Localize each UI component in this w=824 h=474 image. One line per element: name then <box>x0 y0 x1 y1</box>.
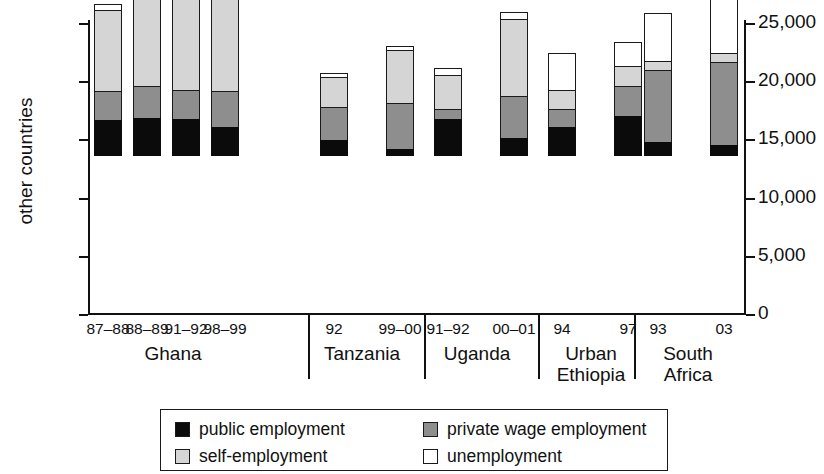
right-tick-mark <box>746 81 755 83</box>
bar-segment-public <box>644 142 672 156</box>
bar-segment-private <box>644 70 672 143</box>
bar-segment-self <box>133 0 161 87</box>
bar-stack <box>172 0 200 155</box>
left-tick-mark <box>79 139 88 141</box>
bar-segment-self <box>548 90 576 110</box>
group-separator <box>308 315 310 379</box>
bar-segment-private <box>211 91 239 128</box>
bar-stack <box>500 12 528 155</box>
bar-segment-unemp <box>644 13 672 62</box>
bar-segment-public <box>320 140 348 156</box>
bar-stack <box>710 0 738 155</box>
bar-segment-private <box>172 90 200 120</box>
bar-segment-self <box>614 66 642 87</box>
bar-stack <box>94 4 122 155</box>
x-group-label: SouthAfrica <box>608 344 768 385</box>
group-separator <box>634 315 636 379</box>
left-tick-mark <box>79 81 88 83</box>
bar-segment-self <box>211 0 239 92</box>
group-separator <box>538 315 540 379</box>
legend-item-self-employment: self-employment <box>175 446 423 467</box>
legend-label-self-employment: self-employment <box>199 446 327 467</box>
legend-row-1: public employment private wage employmen… <box>175 416 657 443</box>
bar-segment-self <box>434 75 462 110</box>
right-tick-mark <box>746 139 755 141</box>
legend-item-public-employment: public employment <box>175 419 423 440</box>
x-group-label: Ghana <box>93 344 253 365</box>
bar-stack <box>133 0 161 155</box>
bar-segment-self <box>320 77 348 108</box>
bar-segment-private <box>500 96 528 139</box>
legend-swatch-self-icon <box>175 449 190 464</box>
bar-stack <box>211 0 239 155</box>
bar-segment-unemp <box>548 53 576 91</box>
bar-segment-public <box>211 127 239 156</box>
right-tick-mark <box>746 23 755 25</box>
bar-stack <box>548 53 576 155</box>
bar-stack <box>386 46 414 155</box>
legend-swatch-unemployment-icon <box>423 449 438 464</box>
bar-segment-private <box>710 62 738 146</box>
bar-segment-public <box>548 127 576 156</box>
legend-item-unemployment: unemployment <box>423 446 562 467</box>
x-group-label-line: South <box>608 344 768 365</box>
bars-area <box>0 0 824 315</box>
x-category-label: 03 <box>684 320 764 338</box>
bar-segment-self <box>386 50 414 104</box>
left-tick-mark <box>79 23 88 25</box>
bar-stack <box>644 13 672 155</box>
bar-segment-public <box>133 118 161 156</box>
bar-segment-public <box>172 119 200 156</box>
bar-segment-unemp <box>614 42 642 67</box>
right-tick-mark <box>746 198 755 200</box>
legend-swatch-private-icon <box>423 422 438 437</box>
bar-segment-private <box>614 86 642 117</box>
right-tick-mark <box>746 256 755 258</box>
bar-segment-self <box>94 10 122 92</box>
legend-row-2: self-employment unemployment <box>175 443 657 470</box>
chart-legend: public employment private wage employmen… <box>160 409 668 471</box>
bar-segment-private <box>386 103 414 150</box>
bar-segment-private <box>320 107 348 141</box>
bar-segment-public <box>386 149 414 156</box>
stacked-bar-chart: other countries Ethiopia and South Afric… <box>0 0 824 474</box>
bar-stack <box>614 42 642 155</box>
bar-segment-public <box>94 120 122 156</box>
left-tick-mark <box>79 198 88 200</box>
bar-segment-self <box>500 19 528 97</box>
group-separator <box>424 315 426 379</box>
left-tick-mark <box>79 314 88 316</box>
bar-segment-unemp <box>710 0 738 54</box>
bar-segment-public <box>500 138 528 156</box>
right-tick-mark <box>746 314 755 316</box>
bar-segment-public <box>434 119 462 156</box>
left-tick-mark <box>79 256 88 258</box>
bar-segment-private <box>548 109 576 128</box>
bar-stack <box>434 68 462 155</box>
bar-segment-self <box>172 0 200 91</box>
x-category-label: 98–99 <box>185 320 265 338</box>
legend-label-unemployment: unemployment <box>447 446 562 467</box>
legend-label-private-wage-employment: private wage employment <box>447 419 646 440</box>
bar-segment-public <box>710 145 738 156</box>
bar-stack <box>320 73 348 155</box>
x-group-label-line: Africa <box>608 365 768 386</box>
legend-label-public-employment: public employment <box>199 419 345 440</box>
bar-segment-public <box>614 116 642 156</box>
bar-segment-private <box>133 86 161 119</box>
legend-swatch-public-icon <box>175 422 190 437</box>
legend-item-private-wage-employment: private wage employment <box>423 419 646 440</box>
bar-segment-private <box>94 91 122 121</box>
